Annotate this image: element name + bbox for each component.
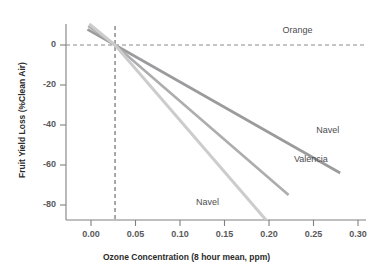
y-axis-title: Fruit Yield Loss (%Clean Air) (17, 40, 27, 200)
series-label-valencia: Valencia (294, 154, 328, 164)
y-tick-label: -80 (26, 199, 56, 209)
x-tick-label: 0.20 (249, 229, 289, 239)
series-line-valencia (88, 26, 288, 195)
x-tick-label: 0.30 (338, 229, 373, 239)
series-label-navel: Navel (196, 197, 219, 207)
data-series-lines (87, 24, 340, 225)
x-tick-label: 0.05 (116, 229, 156, 239)
series-label-orange: Orange (282, 25, 312, 35)
x-tick-label: 0.00 (71, 229, 111, 239)
y-axis-ticks (60, 45, 66, 205)
series-line-navel (87, 29, 340, 173)
series-line-navel-sensitive- (89, 24, 270, 225)
y-tick-label: -20 (26, 79, 56, 89)
y-tick-label: 0 (26, 39, 56, 49)
x-axis-title: Ozone Concentration (8 hour mean, ppm) (0, 252, 373, 262)
chart-figure: 0-20-40-60-80 0.000.050.100.150.200.250.… (0, 0, 373, 277)
y-tick-label: -40 (26, 119, 56, 129)
x-tick-label: 0.25 (294, 229, 334, 239)
series-label-navel: Navel (316, 125, 339, 135)
x-axis-ticks (91, 220, 358, 226)
x-tick-label: 0.10 (160, 229, 200, 239)
reference-lines (66, 26, 364, 220)
x-tick-label: 0.15 (205, 229, 245, 239)
y-tick-label: -60 (26, 159, 56, 169)
